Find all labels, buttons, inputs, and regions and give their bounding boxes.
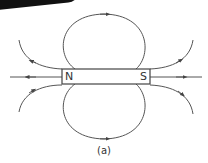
field-line-upper-left — [19, 40, 62, 69]
field-line-lower-loop — [63, 84, 145, 139]
north-pole-label: N — [65, 71, 73, 82]
bar-magnet — [62, 69, 150, 84]
bar-magnet-field-diagram — [0, 0, 208, 163]
field-line-upper-loop — [63, 14, 145, 69]
field-line-lower-right — [150, 85, 193, 114]
figure-caption: (a) — [0, 145, 208, 156]
south-pole-label: S — [140, 71, 147, 82]
field-line-upper-right — [150, 40, 193, 69]
field-line-lower-left — [19, 85, 62, 112]
